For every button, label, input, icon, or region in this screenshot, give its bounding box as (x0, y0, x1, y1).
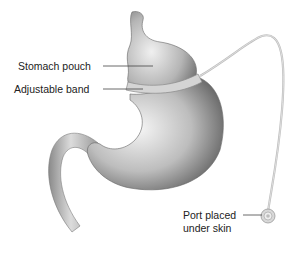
stomach-body (87, 78, 223, 190)
port-icon (261, 209, 275, 223)
label-adjustable-band: Adjustable band (14, 83, 89, 96)
label-port-line2: under skin (183, 222, 231, 235)
gastric-band-diagram (0, 0, 299, 253)
label-port-line1: Port placed (183, 209, 236, 222)
label-stomach-pouch: Stomach pouch (18, 60, 91, 73)
